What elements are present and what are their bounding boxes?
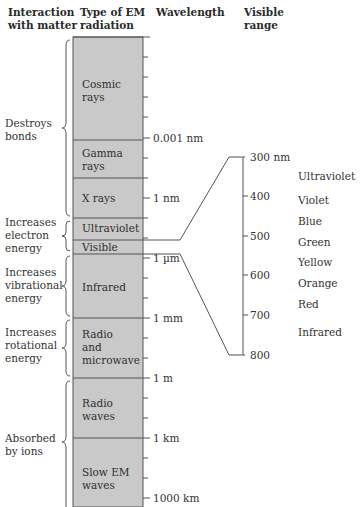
line: energy [5, 352, 57, 365]
visible-800: 800 [250, 349, 270, 361]
visible-scale-axis [243, 157, 248, 355]
line: Increases [5, 326, 57, 339]
line: vibrational [5, 279, 63, 292]
wavelength-1mm: 1 mm [153, 312, 183, 324]
band-gamma-rays: Gamma rays [82, 147, 123, 173]
line: Visible [82, 241, 118, 254]
band-radio-waves: Radio waves [82, 397, 115, 423]
header-wavelength: Wavelength [156, 6, 225, 19]
band-ultraviolet: Ultraviolet [82, 222, 139, 235]
line: rays [82, 160, 123, 173]
color-red: Red [298, 298, 319, 310]
line: Infrared [82, 281, 126, 294]
wavelength-0001nm: 0.001 nm [153, 132, 203, 144]
color-orange: Orange [298, 277, 338, 289]
wavelength-1km: 1 km [153, 432, 179, 444]
interaction-electron: Increases electron energy [5, 216, 56, 255]
line: Increases [5, 216, 56, 229]
band-x-rays: X rays [82, 192, 115, 205]
color-ultraviolet: Ultraviolet [298, 170, 355, 182]
header-line: with matter [8, 19, 77, 32]
line: electron [5, 229, 56, 242]
band-radio-microwave: Radio and microwave [82, 328, 140, 367]
interaction-vibrational: Increases vibrational energy [5, 266, 63, 305]
color-blue: Blue [298, 215, 322, 227]
line: waves [82, 410, 115, 423]
color-violet: Violet [298, 194, 329, 206]
line: Destroys [5, 117, 52, 130]
interaction-destroys-bonds: Destroys bonds [5, 117, 52, 143]
wavelength-1um: 1 µm [153, 252, 180, 264]
line: microwave [82, 354, 140, 367]
line: by ions [5, 445, 56, 458]
visible-300nm: 300 nm [250, 151, 290, 163]
color-infrared: Infrared [298, 326, 342, 338]
line: Increases [5, 266, 63, 279]
line: energy [5, 292, 63, 305]
header-type: Type of EM radiation [80, 6, 145, 32]
interaction-braces [62, 40, 70, 507]
interaction-absorbed-ions: Absorbed by ions [5, 432, 56, 458]
interaction-rotational: Increases rotational energy [5, 326, 57, 365]
line: X rays [82, 192, 115, 205]
band-slow-em-waves: Slow EM waves [82, 466, 130, 492]
wavelength-1m: 1 m [153, 372, 173, 384]
header-line: radiation [80, 19, 145, 32]
line: Radio [82, 328, 140, 341]
line: energy [5, 242, 56, 255]
line: and [82, 341, 140, 354]
visible-600: 600 [250, 269, 270, 281]
header-line: Visible [244, 6, 284, 19]
band-infrared: Infrared [82, 281, 126, 294]
header-interaction: Interaction with matter [8, 6, 77, 32]
wavelength-1nm: 1 nm [153, 192, 180, 204]
line: waves [82, 479, 130, 492]
line: rotational [5, 339, 57, 352]
visible-700: 700 [250, 309, 270, 321]
band-visible: Visible [82, 241, 118, 254]
color-green: Green [298, 236, 331, 248]
header-line: range [244, 19, 284, 32]
connector-lower [143, 254, 245, 355]
line: Cosmic [82, 78, 121, 91]
header-line: Interaction [8, 6, 77, 19]
visible-500: 500 [250, 230, 270, 242]
line: Radio [82, 397, 115, 410]
wavelength-ticks [143, 57, 150, 498]
line: Gamma [82, 147, 123, 160]
line: bonds [5, 130, 52, 143]
line: Absorbed [5, 432, 56, 445]
color-yellow: Yellow [298, 256, 332, 268]
header-line: Type of EM [80, 6, 145, 19]
band-cosmic-rays: Cosmic rays [82, 78, 121, 104]
line: Ultraviolet [82, 222, 139, 235]
wavelength-1000km: 1000 km [153, 492, 199, 504]
line: Slow EM [82, 466, 130, 479]
line: rays [82, 91, 121, 104]
header-visible: Visible range [244, 6, 284, 32]
spectrum-bar [73, 37, 143, 507]
visible-400: 400 [250, 190, 270, 202]
